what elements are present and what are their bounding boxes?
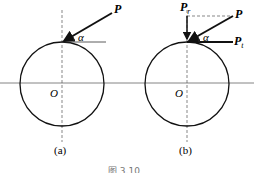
label-panel-b: (b) xyxy=(179,144,192,156)
label-panel-a: (a) xyxy=(54,144,66,156)
label-alpha-a: α xyxy=(78,31,84,43)
force-arrow-p-b xyxy=(189,16,233,41)
panel-a xyxy=(20,10,112,142)
force-arrow-p-a xyxy=(64,13,112,41)
circle-b xyxy=(145,42,229,126)
circle-a xyxy=(20,42,104,126)
figure-caption: 图 3.10 xyxy=(108,164,140,173)
label-pt-sub: t xyxy=(241,41,243,50)
label-pt: Pt xyxy=(234,34,244,50)
panel-b xyxy=(145,10,233,142)
label-pr-sub: r xyxy=(187,7,190,16)
label-o-b: O xyxy=(175,87,183,99)
label-p-a: P xyxy=(114,2,121,17)
label-p-b: P xyxy=(235,7,242,22)
label-alpha-b: α xyxy=(203,31,209,43)
label-o-a: O xyxy=(50,87,58,99)
figure-canvas xyxy=(0,0,254,173)
angle-arc-a xyxy=(73,36,74,42)
label-pr: Pr xyxy=(180,0,190,16)
